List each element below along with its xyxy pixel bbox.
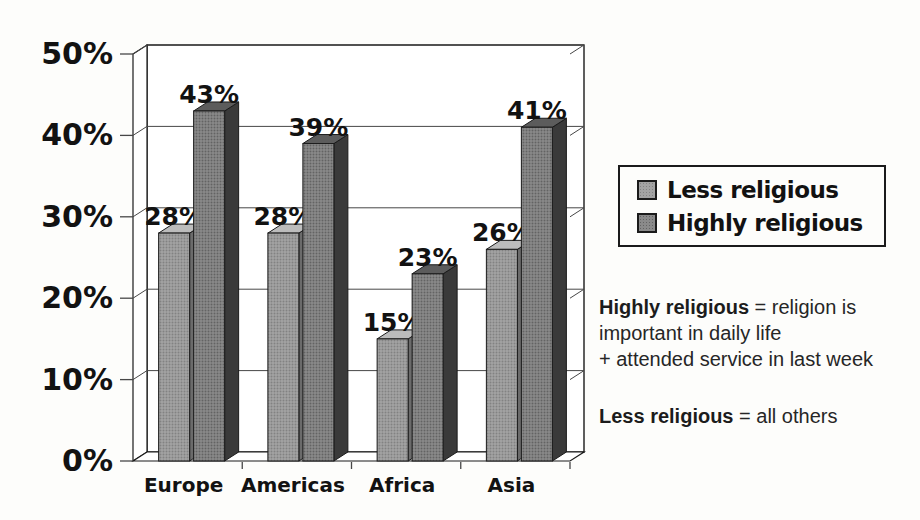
bar-africa-less-religious xyxy=(377,339,408,461)
legend: Less religious Highly religious xyxy=(618,165,886,247)
legend-item-less-religious: Less religious xyxy=(637,177,884,203)
legend-swatch-highly-religious-icon xyxy=(637,213,657,233)
bar-americas-less-religious xyxy=(268,233,299,461)
bar-asia-less-religious xyxy=(486,249,517,461)
bar-value-label-americas-highly-religious: 39% xyxy=(288,113,348,142)
bar-value-label-asia-highly-religious: 41% xyxy=(507,96,567,125)
legend-swatch-less-religious-icon xyxy=(637,180,657,200)
category-label-americas: Americas xyxy=(241,473,345,497)
bar-chart-3d: 0%10%20%30%40%50%28%43%Europe28%39%Ameri… xyxy=(0,0,920,520)
y-axis-label: 20% xyxy=(41,280,113,315)
y-axis-label: 30% xyxy=(41,199,113,234)
plot-left-wall xyxy=(133,45,147,461)
bar-value-label-europe-highly-religious: 43% xyxy=(179,80,239,109)
bar-value-label-africa-highly-religious: 23% xyxy=(398,243,458,272)
bar-side-africa-highly-religious xyxy=(443,265,457,461)
y-axis-label: 50% xyxy=(41,36,113,71)
chart-figure: 0%10%20%30%40%50%28%43%Europe28%39%Ameri… xyxy=(0,0,920,520)
definition-note: Less religious = all others xyxy=(599,403,917,429)
y-axis-label: 10% xyxy=(41,362,113,397)
category-label-asia: Asia xyxy=(488,473,536,497)
bar-americas-highly-religious xyxy=(303,144,334,461)
y-axis-label: 40% xyxy=(41,117,113,152)
category-label-europe: Europe xyxy=(144,473,223,497)
legend-label-less-religious: Less religious xyxy=(667,177,839,203)
definition-note: Highly religious = religion isimportant … xyxy=(599,294,917,372)
bar-europe-highly-religious xyxy=(194,111,225,461)
legend-label-highly-religious: Highly religious xyxy=(667,210,863,236)
bar-africa-highly-religious xyxy=(412,274,443,461)
bar-side-europe-highly-religious xyxy=(225,102,239,461)
y-axis-label: 0% xyxy=(62,443,113,478)
definition-notes: Highly religious = religion isimportant … xyxy=(599,294,917,429)
legend-item-highly-religious: Highly religious xyxy=(637,210,884,236)
bar-asia-highly-religious xyxy=(521,127,552,461)
bar-side-americas-highly-religious xyxy=(334,135,348,461)
category-label-africa: Africa xyxy=(369,473,435,497)
bar-europe-less-religious xyxy=(159,233,190,461)
bar-side-asia-highly-religious xyxy=(552,118,566,461)
